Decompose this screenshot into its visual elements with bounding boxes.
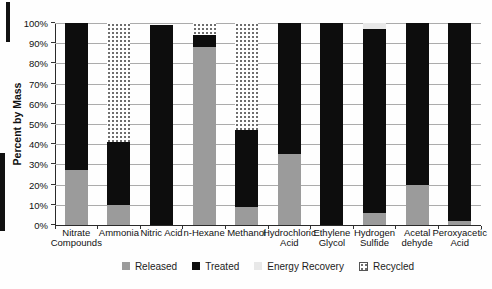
segment-treated [363,29,386,213]
stacked-bar-chart-figure: Percent by Mass 0%10%20%30%40%50%60%70%8… [0,0,492,289]
y-tick-label-90-: 90% [2,38,48,49]
bar-methanol [225,23,268,225]
legend-item-released: Released [122,261,177,272]
segment-released [65,170,88,225]
y-tick-label-70-: 70% [2,79,48,90]
x-label-line: Acid [432,238,486,248]
bar-stack [363,23,386,225]
bar-stack [278,23,301,225]
segment-treated [448,23,471,221]
bar-stack [406,23,429,225]
x-label-nitrate-compounds: NitrateCompounds [51,228,102,248]
legend-label-treated: Treated [205,261,239,272]
x-label-line: dehyde [402,238,433,248]
bar-acetal-dehyde [396,23,439,225]
x-label-line: Sulfide [354,238,395,248]
x-label-hydrochloric-acid: HydrochloricAcid [263,228,316,248]
x-label-line: Acid [263,238,316,248]
x-label-line: Nitric Acid [140,228,182,238]
y-tick-label-10-: 10% [2,200,48,211]
segment-treated [193,35,216,47]
x-label-line: Methanol [227,228,266,238]
legend-item-energy-recovery: Energy Recovery [254,261,344,272]
segment-released [363,213,386,225]
segment-recycled [107,23,130,142]
legend-swatch-released-icon [122,262,130,270]
segment-released [193,47,216,225]
segment-released [107,205,130,225]
segment-treated [320,23,343,225]
x-label-line: Ammonia [99,228,139,238]
legend-item-recycled: Recycled [359,261,414,272]
legend-label-energy-recovery: Energy Recovery [267,261,344,272]
bar-hydrochloric-acid [268,23,311,225]
x-label-line: Compounds [51,238,102,248]
legend-swatch-treated-icon [192,262,200,270]
y-tick-label-20-: 20% [2,180,48,191]
segment-treated [150,25,173,225]
bar-hydrogen-sulfide [353,23,396,225]
bar-stack [150,23,173,225]
y-tick-label-40-: 40% [2,139,48,150]
y-tick-label-30-: 30% [2,159,48,170]
bar-stack [107,23,130,225]
bar-n-hexane [183,23,226,225]
x-label-ethylene-glycol: EthyleneGlycol [313,228,350,248]
segment-released [278,154,301,225]
y-tick-label-100-: 100% [2,18,48,29]
bar-peroxyacetic-acid [438,23,481,225]
segment-recycled [235,23,258,130]
legend-swatch-recycled-icon [359,262,368,271]
x-label-peroxyacetic-acid: PeroxyaceticAcid [432,228,486,248]
y-axis: 0%10%20%30%40%50%60%70%80%90%100% [0,23,55,225]
y-tick-label-50-: 50% [2,119,48,130]
x-label-hydrogen-sulfide: HydrogenSulfide [354,228,395,248]
x-axis: NitrateCompoundsAmmoniaNitric Acidn-Hexa… [55,228,481,252]
x-label-methanol: Methanol [227,228,266,238]
bar-ethylene-glycol [311,23,354,225]
y-tick-label-0-: 0% [2,220,48,231]
x-label-n-hexane: n-Hexane [183,228,224,238]
y-tick-label-80-: 80% [2,58,48,69]
x-label-acetal-dehyde: Acetaldehyde [402,228,433,248]
plot-area [55,23,481,225]
bar-stack [193,23,216,225]
bar-stack [235,23,258,225]
bar-nitric-acid [140,23,183,225]
segment-released [235,207,258,225]
legend-item-treated: Treated [192,261,239,272]
y-tick-label-60-: 60% [2,99,48,110]
segment-released [406,185,429,225]
segment-recycled [193,23,216,35]
bar-stack [320,23,343,225]
segment-treated [406,23,429,185]
legend-label-recycled: Recycled [373,261,414,272]
x-label-nitric-acid: Nitric Acid [140,228,182,238]
segment-treated [65,23,88,170]
legend-swatch-energy-recovery-icon [254,262,262,270]
bar-nitrate-compounds [55,23,98,225]
segment-treated [107,142,130,205]
legend: ReleasedTreatedEnergy RecoveryRecycled [55,258,481,274]
x-label-ammonia: Ammonia [99,228,139,238]
bar-stack [65,23,88,225]
segment-treated [235,130,258,207]
segment-treated [278,23,301,154]
legend-label-released: Released [135,261,177,272]
x-label-line: Glycol [313,238,350,248]
bar-ammonia [98,23,141,225]
x-label-line: n-Hexane [183,228,224,238]
bar-stack [448,23,471,225]
segment-released [448,221,471,225]
